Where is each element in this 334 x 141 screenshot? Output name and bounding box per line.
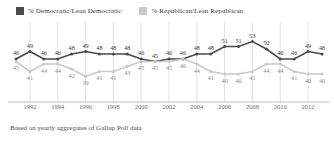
x-axis-tick-label: 2008: [246, 103, 259, 110]
data-label: 49: [305, 42, 311, 49]
data-label: 45: [152, 52, 158, 59]
data-point: [112, 70, 115, 73]
data-point: [140, 60, 143, 63]
data-label: 48: [110, 44, 116, 51]
data-point: [70, 68, 73, 71]
data-label: 42: [69, 72, 75, 79]
data-point: [98, 70, 101, 73]
data-point: [28, 70, 31, 73]
data-label: 41: [208, 74, 214, 81]
x-axis-tick-label: 2002: [163, 103, 176, 110]
data-label: 48: [208, 44, 214, 51]
data-point: [168, 60, 171, 63]
chart-svg: 4649464648494848484645464648485151535046…: [0, 22, 334, 106]
data-point: [223, 45, 226, 48]
data-label: 44: [41, 67, 47, 74]
data-point: [321, 73, 324, 76]
data-label: 45: [152, 64, 158, 71]
data-point: [126, 53, 129, 56]
data-label: 51: [222, 37, 228, 44]
data-point: [195, 53, 198, 56]
data-point: [42, 63, 45, 66]
data-label: 46: [138, 49, 144, 56]
data-point: [209, 70, 212, 73]
chart-legend: % Democratic/Lean Democratic % Republica…: [0, 0, 334, 22]
data-label: 45: [138, 64, 144, 71]
data-point: [223, 73, 226, 76]
x-axis-tick-label: 2004: [190, 103, 203, 110]
legend-swatch-democratic-icon: [16, 7, 24, 15]
data-label: 53: [249, 32, 255, 39]
data-label: 46: [180, 49, 186, 56]
data-label: 41: [96, 74, 102, 81]
data-label: 49: [27, 42, 33, 49]
x-axis-tick-label: 1996: [79, 103, 92, 110]
x-axis-tick-label: 2012: [302, 103, 315, 110]
data-point: [84, 75, 87, 78]
data-label: 41: [249, 74, 255, 81]
data-point: [251, 40, 254, 43]
data-label: 49: [82, 42, 88, 49]
data-label: 48: [69, 44, 75, 51]
x-axis-year-labels: 1992199419961998200020022004200620082010…: [0, 103, 334, 117]
data-point: [237, 73, 240, 76]
data-point: [279, 58, 282, 61]
data-label: 41: [110, 74, 116, 81]
data-point: [279, 63, 282, 66]
data-label: 48: [96, 44, 102, 51]
data-point: [28, 50, 31, 53]
data-point: [126, 65, 129, 68]
legend-label-democratic: % Democratic/Lean Democratic: [28, 7, 121, 15]
data-point: [42, 58, 45, 61]
data-point: [112, 53, 115, 56]
data-label: 46: [166, 49, 172, 56]
data-point: [307, 73, 310, 76]
data-point: [181, 58, 184, 61]
data-label: 46: [180, 62, 186, 69]
data-label: 44: [55, 67, 61, 74]
data-point: [293, 58, 296, 61]
data-point: [195, 63, 198, 66]
data-label: 43: [124, 69, 130, 76]
data-label: 51: [235, 37, 241, 44]
data-point: [98, 53, 101, 56]
data-label: 46: [13, 49, 19, 56]
data-point: [15, 60, 18, 63]
data-label: 44: [277, 67, 283, 74]
data-point: [251, 70, 254, 73]
data-label: 46: [277, 49, 283, 56]
data-label: 40: [305, 77, 311, 84]
data-point: [56, 58, 59, 61]
x-axis-tick-label: 2010: [274, 103, 287, 110]
data-point: [56, 63, 59, 66]
x-axis-tick-label: 1992: [23, 103, 36, 110]
legend-item-democratic: % Democratic/Lean Democratic: [16, 7, 121, 15]
legend-item-republican: % Republican/Lean Republican: [139, 7, 243, 15]
data-point: [84, 50, 87, 53]
x-axis-tick-label: 2006: [218, 103, 231, 110]
data-label: 48: [124, 44, 130, 51]
data-label: 39: [82, 79, 88, 86]
data-label: 46: [41, 49, 47, 56]
data-label: 45: [13, 64, 19, 71]
data-label: 41: [27, 74, 33, 81]
data-label: 40: [235, 77, 241, 84]
chart-footnote: Based on yearly aggregates of Gallup Pol…: [10, 124, 142, 132]
data-label: 46: [55, 49, 61, 56]
x-axis-tick-label: 2000: [135, 103, 148, 110]
data-label: 44: [194, 67, 200, 74]
data-point: [265, 48, 268, 51]
data-label: 41: [291, 74, 297, 81]
data-point: [70, 53, 73, 56]
data-label: 48: [194, 44, 200, 51]
data-point: [237, 45, 240, 48]
data-label: 40: [222, 77, 228, 84]
legend-swatch-republican-icon: [139, 7, 147, 15]
data-point: [293, 70, 296, 73]
x-axis-tick-label: 1998: [107, 103, 120, 110]
data-label: 50: [263, 39, 269, 46]
data-point: [209, 53, 212, 56]
legend-label-republican: % Republican/Lean Republican: [151, 7, 243, 15]
data-label: 45: [166, 64, 172, 71]
data-label: 40: [319, 77, 325, 84]
